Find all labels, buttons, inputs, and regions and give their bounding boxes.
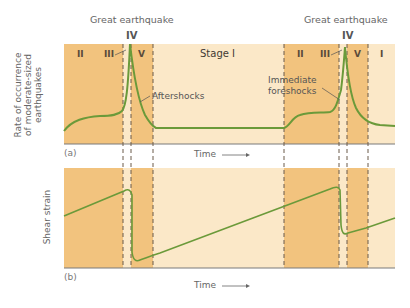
stage-ii-label-2: II	[297, 49, 304, 59]
stage-iii-label-1: III	[104, 49, 114, 59]
time-label-b: Time	[194, 280, 216, 290]
stage-i-label: Stage I	[200, 48, 235, 59]
foreshocks-annotation-line2: foreshocks	[268, 86, 316, 96]
stage-v-label-2: V	[354, 49, 361, 59]
ylabel-line-1: Rate of occurrence	[13, 45, 23, 145]
aftershocks-annotation: Aftershocks	[152, 91, 204, 101]
time-label-a: Time	[194, 149, 216, 159]
foreshocks-annotation-line1: Immediate	[268, 75, 317, 85]
ylabel-line-2: of moderate-sized	[23, 45, 33, 145]
great-earthquake-label-1: Great earthquake	[90, 14, 174, 25]
rate-ylabel: Rate of occurrence of moderate-sized ear…	[0, 80, 78, 110]
panel-b-bands	[64, 168, 395, 268]
shear-strain-ylabel: Shear strain	[12, 212, 82, 224]
stage-iv-label-2: IV	[342, 30, 353, 41]
shear-strain-text: Shear strain	[42, 182, 52, 252]
ylabel-line-3: earthquakes	[33, 45, 43, 145]
great-earthquake-label-2: Great earthquake	[304, 14, 388, 25]
stage-ii-label-1: II	[77, 49, 84, 59]
stage-v-label-1: V	[138, 49, 145, 59]
panel-b-label: (b)	[64, 272, 77, 282]
panel-a-label: (a)	[64, 148, 77, 158]
stage-i-label-2: I	[380, 49, 383, 59]
stage-iii-label-2: III	[320, 49, 330, 59]
stage-iv-label-1: IV	[126, 30, 137, 41]
